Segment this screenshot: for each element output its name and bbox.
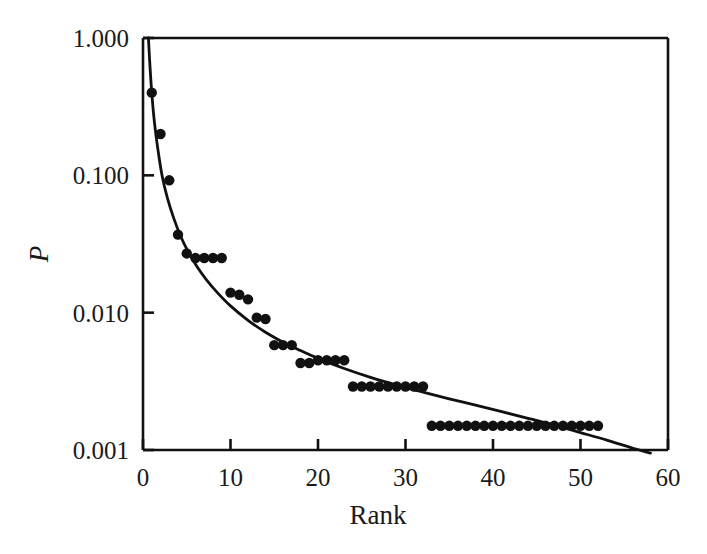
x-tick-label: 20 — [306, 464, 331, 491]
data-point — [252, 312, 262, 322]
chart-background — [0, 0, 707, 554]
x-tick-label: 40 — [481, 464, 506, 491]
y-tick-label: 0.001 — [73, 437, 129, 464]
data-point — [155, 129, 165, 139]
x-axis-title: Rank — [350, 500, 407, 530]
data-point — [260, 314, 270, 324]
data-point — [418, 381, 428, 391]
y-tick-label: 0.100 — [73, 162, 129, 189]
x-tick-label: 0 — [137, 464, 150, 491]
data-point — [243, 294, 253, 304]
data-point — [225, 287, 235, 297]
data-point — [164, 175, 174, 185]
y-axis-title: P — [24, 246, 54, 264]
y-tick-label: 0.010 — [73, 300, 129, 327]
y-tick-label: 1.000 — [73, 25, 129, 52]
x-tick-label: 50 — [568, 464, 593, 491]
x-tick-label: 60 — [656, 464, 681, 491]
chart-figure: 0.0010.0100.1001.000 0102030405060 Rank … — [0, 0, 707, 554]
data-point — [339, 355, 349, 365]
x-tick-label: 10 — [218, 464, 243, 491]
data-point — [217, 253, 227, 263]
x-tick-label: 30 — [393, 464, 418, 491]
rank-probability-chart: 0.0010.0100.1001.000 0102030405060 Rank … — [0, 0, 707, 554]
data-point — [147, 87, 157, 97]
data-point — [173, 229, 183, 239]
data-point — [287, 340, 297, 350]
data-point — [593, 421, 603, 431]
